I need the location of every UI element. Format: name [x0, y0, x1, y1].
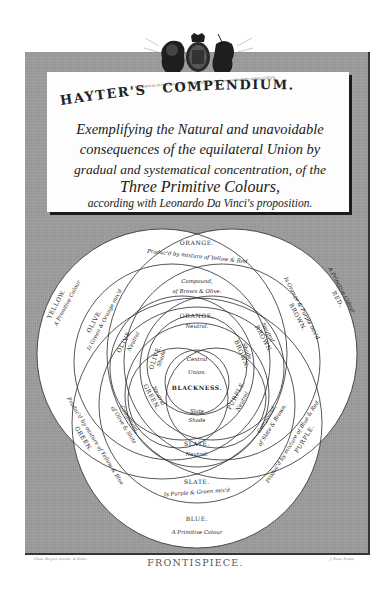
- svg-text:of Brown & Olive.: of Brown & Olive.: [173, 288, 222, 295]
- svg-text:A Primitive Colour: A Primitive Colour: [171, 529, 223, 535]
- svg-text:Shade: Shade: [188, 417, 205, 423]
- svg-text:ORANGE,: ORANGE,: [180, 312, 214, 319]
- svg-text:SLATE.: SLATE.: [184, 478, 210, 485]
- engraved-plate: Dedicated by Permission to Her Royal Hig…: [0, 0, 391, 598]
- svg-text:Neutral.: Neutral.: [185, 451, 209, 457]
- svg-text:Compound,: Compound,: [181, 278, 213, 285]
- svg-text:ORANGE.: ORANGE.: [180, 239, 214, 246]
- svg-text:BLACKNESS.: BLACKNESS.: [172, 384, 222, 391]
- svg-text:SLATE.: SLATE.: [184, 440, 210, 447]
- engraver-credit-right: J. Pass, Sculp.: [330, 557, 355, 561]
- colour-circle-diagram: YELLOW. A Primitive Colour RED. A Primit…: [0, 0, 391, 598]
- svg-text:Central: Central: [187, 356, 208, 362]
- svg-text:Union.: Union.: [188, 369, 206, 375]
- svg-text:Slate: Slate: [190, 408, 204, 414]
- svg-text:Neutral.: Neutral.: [185, 323, 209, 329]
- svg-text:BLUE.: BLUE.: [186, 515, 208, 522]
